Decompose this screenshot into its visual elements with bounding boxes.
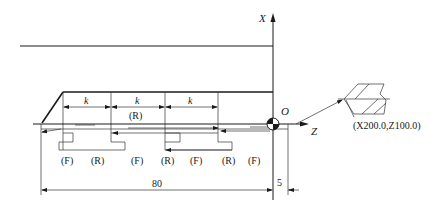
origin-label: O xyxy=(281,105,289,117)
workpiece-outline xyxy=(42,92,273,123)
start-point-label: (X200.0,Z100.0) xyxy=(353,120,421,132)
thread-cutting-diagram: X k k k (R) Z xyxy=(0,0,447,210)
pitch-label-2: k xyxy=(135,95,140,106)
motion-label-1: (F) xyxy=(61,155,73,167)
z-axis-label: Z xyxy=(311,125,318,137)
x-axis-arrow-icon xyxy=(271,13,276,22)
rapid-label-center: (R) xyxy=(129,110,142,122)
motion-label-3: (F) xyxy=(131,155,143,167)
motion-label-5: (F) xyxy=(190,155,202,167)
pitch-label-1: k xyxy=(84,95,89,106)
x-axis-label: X xyxy=(258,12,267,24)
x-axis xyxy=(271,13,276,200)
z-axis-arrow-icon xyxy=(300,122,309,127)
offset-dimension-value: 5 xyxy=(277,177,282,188)
threading-tool-icon xyxy=(296,84,390,124)
motion-label-7: (F) xyxy=(248,155,260,167)
origin-marker-icon xyxy=(267,118,279,130)
pitch-label-3: k xyxy=(188,95,193,106)
length-dimension-value: 80 xyxy=(152,178,162,189)
motion-label-6: (R) xyxy=(222,155,235,167)
motion-label-4: (R) xyxy=(161,155,174,167)
motion-label-2: (R) xyxy=(91,155,104,167)
